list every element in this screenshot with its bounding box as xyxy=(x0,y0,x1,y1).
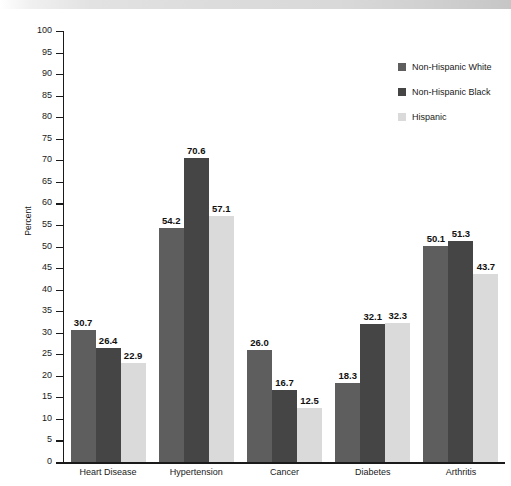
bar xyxy=(360,324,385,462)
bar-value-label: 26.4 xyxy=(92,335,125,346)
y-axis-tick xyxy=(56,397,63,398)
bar xyxy=(473,274,498,462)
bar-value-label: 18.3 xyxy=(331,370,364,381)
bar xyxy=(209,216,234,462)
legend-label: Hispanic xyxy=(412,112,447,122)
y-axis-tick-label: 30 xyxy=(22,327,52,337)
y-axis-tick xyxy=(56,117,63,118)
y-axis-tick-label: 40 xyxy=(22,284,52,294)
y-axis-tick xyxy=(56,31,63,32)
bar-value-label: 16.7 xyxy=(268,377,301,388)
bar-value-label: 51.3 xyxy=(444,228,477,239)
y-axis-tick-label: 65 xyxy=(22,176,52,186)
legend-item-non-hispanic-white: Non-Hispanic White xyxy=(398,62,492,87)
legend-swatch-icon xyxy=(398,63,406,71)
y-axis-tick xyxy=(56,290,63,291)
bar xyxy=(335,383,360,462)
bar-value-label: 43.7 xyxy=(469,261,502,272)
y-axis-tick xyxy=(56,139,63,140)
y-axis-tick xyxy=(56,440,63,441)
legend-label: Non-Hispanic White xyxy=(412,62,492,72)
bar-value-label: 70.6 xyxy=(180,145,213,156)
bar xyxy=(71,330,96,462)
chart-legend: Non-Hispanic White Non-Hispanic Black Hi… xyxy=(398,62,492,137)
legend-swatch-icon xyxy=(398,88,406,96)
y-axis-tick-label: 90 xyxy=(22,68,52,78)
y-axis-tick xyxy=(56,96,63,97)
y-axis-tick-label: 20 xyxy=(22,370,52,380)
y-axis-tick xyxy=(56,333,63,334)
bar xyxy=(247,350,272,462)
bar xyxy=(423,246,448,462)
y-axis-tick-label: 55 xyxy=(22,219,52,229)
y-axis-tick xyxy=(56,53,63,54)
bar xyxy=(159,228,184,462)
y-axis-tick xyxy=(56,354,63,355)
bar-value-label: 30.7 xyxy=(67,317,100,328)
y-axis-tick xyxy=(56,247,63,248)
bar-value-label: 57.1 xyxy=(205,203,238,214)
bar-value-label: 12.5 xyxy=(293,395,326,406)
y-axis-tick xyxy=(56,376,63,377)
y-axis-tick-label: 70 xyxy=(22,154,52,164)
y-axis-tick xyxy=(56,311,63,312)
bar-value-label: 26.0 xyxy=(243,337,276,348)
y-axis-tick-label: 100 xyxy=(22,25,52,35)
bar xyxy=(121,363,146,462)
y-axis-tick-label: 60 xyxy=(22,197,52,207)
bar-value-label: 54.2 xyxy=(155,215,188,226)
y-axis-tick-label: 25 xyxy=(22,348,52,358)
y-axis-tick-label: 85 xyxy=(22,90,52,100)
y-axis-tick-label: 45 xyxy=(22,262,52,272)
y-axis-tick xyxy=(56,225,63,226)
bar xyxy=(385,323,410,462)
y-axis-tick-label: 50 xyxy=(22,241,52,251)
category-label: Arthritis xyxy=(403,467,511,477)
bar xyxy=(96,348,121,462)
legend-item-non-hispanic-black: Non-Hispanic Black xyxy=(398,87,492,112)
y-axis-tick-label: 80 xyxy=(22,111,52,121)
bar-value-label: 22.9 xyxy=(117,350,150,361)
y-axis-tick-label: 95 xyxy=(22,47,52,57)
y-axis-tick xyxy=(56,182,63,183)
bar-chart: Percent 10095908580757065605550454035302… xyxy=(0,0,511,486)
y-axis-tick xyxy=(56,74,63,75)
y-axis-tick xyxy=(56,419,63,420)
y-axis-tick xyxy=(56,203,63,204)
y-axis-tick-label: 35 xyxy=(22,305,52,315)
legend-item-hispanic: Hispanic xyxy=(398,112,492,137)
y-axis-tick xyxy=(56,462,63,463)
y-axis-tick xyxy=(56,268,63,269)
bar xyxy=(448,241,473,462)
bar xyxy=(297,408,322,462)
y-axis-tick-label: 5 xyxy=(22,434,52,444)
y-axis-tick-label: 15 xyxy=(22,391,52,401)
y-axis-tick-label: 0 xyxy=(22,456,52,466)
y-axis-tick xyxy=(56,160,63,161)
y-axis-tick-label: 10 xyxy=(22,413,52,423)
x-axis-line xyxy=(56,462,505,464)
bar-value-label: 32.3 xyxy=(381,310,414,321)
legend-label: Non-Hispanic Black xyxy=(412,87,491,97)
y-axis-tick-label: 75 xyxy=(22,133,52,143)
legend-swatch-icon xyxy=(398,113,406,121)
